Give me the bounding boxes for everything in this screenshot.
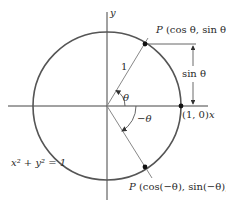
radius-label: 1 — [121, 61, 127, 72]
point-unit — [179, 104, 184, 109]
p-upper-coords: (cos θ, sin θ) — [166, 24, 226, 35]
p-lower-label: P (cos(−θ), sin(−θ)) — [128, 181, 226, 192]
p-lower-coords: (cos(−θ), sin(−θ)) — [139, 181, 226, 192]
sin-theta-label: sin θ — [182, 68, 206, 79]
p-upper-prefix: P — [155, 24, 163, 35]
neg-theta-label: −θ — [137, 113, 151, 124]
point-p-lower — [143, 165, 148, 170]
theta-label: θ — [123, 92, 129, 103]
neg-theta-arc-icon — [122, 106, 136, 131]
equation-label: x² + y² = 1 — [11, 157, 66, 168]
p-upper-label: P (cos θ, sin θ) — [155, 24, 226, 35]
y-axis-label: y — [109, 7, 116, 18]
unit-point-label: (1, 0) — [182, 109, 209, 120]
point-p-upper — [143, 42, 148, 47]
unit-circle-diagram: y x P (cos θ, sin θ) 1 θ −θ sin θ (1, 0)… — [0, 0, 226, 204]
p-lower-prefix: P — [128, 181, 136, 192]
x-axis-label: x — [209, 109, 215, 120]
